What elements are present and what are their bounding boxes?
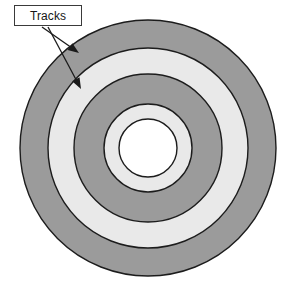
spindle-hole-circle (119, 119, 177, 177)
diagram-canvas: Tracks (0, 0, 293, 288)
tracks-diagram (0, 0, 293, 288)
tracks-label-box: Tracks (14, 5, 82, 26)
tracks-label-text: Tracks (30, 10, 66, 22)
disk-rings (20, 20, 276, 276)
